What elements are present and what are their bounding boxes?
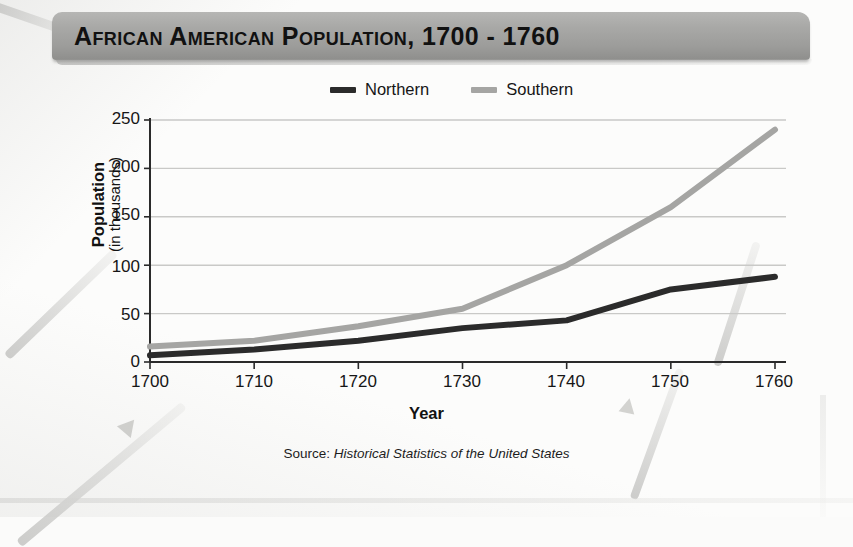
chart-title-bar: African American Population, 1700 - 1760 [52, 12, 810, 60]
source-work: Historical Statistics of the United Stat… [334, 446, 570, 461]
legend-label-northern: Northern [365, 80, 429, 99]
x-axis-title: Year [0, 404, 853, 423]
x-axis-tick-marks [150, 362, 775, 369]
legend-label-southern: Southern [506, 80, 573, 99]
legend-item-southern: Southern [471, 80, 573, 99]
y-axis-title-sub: (in thousands) [108, 130, 124, 280]
source-prefix: Source: [284, 446, 334, 461]
legend-item-northern: Northern [330, 80, 429, 99]
y-axis-title-main: Population [90, 130, 107, 280]
page-title: African American Population, 1700 - 1760 [74, 22, 560, 51]
source-note: Source: Historical Statistics of the Uni… [0, 446, 853, 461]
legend-swatch-southern [471, 87, 497, 93]
legend-swatch-northern [330, 87, 356, 93]
chart-legend: Northern Southern [330, 80, 573, 99]
y-axis-title: Population (in thousands) [90, 130, 123, 280]
